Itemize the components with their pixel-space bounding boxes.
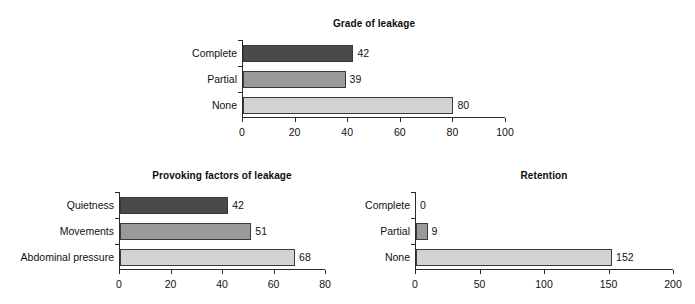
category-label: None <box>212 100 237 111</box>
x-axis-tick <box>171 270 172 274</box>
bar <box>120 197 228 214</box>
category-label: Abdominal pressure <box>21 252 114 263</box>
chart-title: Retention <box>415 170 673 181</box>
x-axis-tick <box>242 118 243 122</box>
chart-provoking-factors-of-leakage: Provoking factors of leakage 020406080Ab… <box>119 170 325 295</box>
y-axis-tick <box>238 66 242 67</box>
x-axis-tick <box>415 270 416 274</box>
bar-row: Partial9 <box>416 223 428 240</box>
category-label: Quietness <box>67 200 114 211</box>
x-axis-tick <box>274 270 275 274</box>
category-label: Partial <box>207 74 237 85</box>
chart-grade-of-leakage: Grade of leakage 020406080100None80Parti… <box>242 18 506 143</box>
plot-area: 020406080100None80Partial39Complete42 <box>242 40 505 118</box>
bar-row: Abdominal pressure68 <box>120 249 295 266</box>
category-label: Complete <box>365 200 410 211</box>
x-axis-tick-label: 50 <box>474 278 486 290</box>
x-axis-tick <box>295 118 296 122</box>
x-axis-line <box>242 117 505 118</box>
x-axis-tick <box>119 270 120 274</box>
bar-value-label: 42 <box>232 200 244 211</box>
x-axis-tick-label: 0 <box>116 278 122 290</box>
y-axis-tick <box>238 92 242 93</box>
x-axis-tick <box>400 118 401 122</box>
category-label: None <box>385 252 410 263</box>
x-axis-tick-label: 40 <box>216 278 228 290</box>
x-axis-tick <box>505 118 506 122</box>
bar <box>416 223 428 240</box>
bar <box>243 97 453 114</box>
x-axis-tick-label: 200 <box>664 278 682 290</box>
bar-value-label: 42 <box>357 48 369 59</box>
chart-title: Provoking factors of leakage <box>119 170 325 181</box>
bar <box>120 249 295 266</box>
bar <box>120 223 251 240</box>
plot-area: 050100150200None152Partial9Complete0 <box>415 192 673 270</box>
y-axis-tick <box>411 244 415 245</box>
category-label: Partial <box>380 226 410 237</box>
x-axis-tick <box>544 270 545 274</box>
x-axis-tick-label: 60 <box>268 278 280 290</box>
y-axis-tick <box>411 192 415 193</box>
x-axis-tick-label: 20 <box>165 278 177 290</box>
bar-value-label: 9 <box>432 226 438 237</box>
x-axis-tick <box>673 270 674 274</box>
chart-retention: Retention 050100150200None152Partial9Com… <box>415 170 673 295</box>
x-axis-tick-label: 0 <box>239 126 245 138</box>
x-axis-tick-label: 150 <box>600 278 618 290</box>
y-axis-tick <box>115 218 119 219</box>
bar-value-label: 51 <box>255 226 267 237</box>
x-axis-tick <box>452 118 453 122</box>
bar-row: Complete0 <box>416 197 417 214</box>
x-axis-tick-label: 80 <box>447 126 459 138</box>
bar <box>416 249 612 266</box>
category-label: Movements <box>60 226 114 237</box>
x-axis-tick-label: 60 <box>394 126 406 138</box>
y-axis-tick <box>115 244 119 245</box>
bar-row: Complete42 <box>243 45 353 62</box>
x-axis-tick <box>222 270 223 274</box>
x-axis-tick-label: 20 <box>289 126 301 138</box>
y-axis-tick <box>238 40 242 41</box>
x-axis-tick <box>480 270 481 274</box>
x-axis-tick-label: 80 <box>319 278 331 290</box>
category-label: Complete <box>192 48 237 59</box>
bar-value-label: 80 <box>457 100 469 111</box>
bar <box>243 71 346 88</box>
bar-value-label: 68 <box>299 252 311 263</box>
y-axis-tick <box>411 218 415 219</box>
x-axis-tick-label: 40 <box>341 126 353 138</box>
chart-title: Grade of leakage <box>242 18 506 29</box>
bar-row: Quietness42 <box>120 197 228 214</box>
bar-row: None80 <box>243 97 453 114</box>
x-axis-tick <box>347 118 348 122</box>
bar-value-label: 39 <box>350 74 362 85</box>
bar-row: Movements51 <box>120 223 251 240</box>
bar-row: None152 <box>416 249 612 266</box>
bar-value-label: 0 <box>420 200 426 211</box>
bar-value-label: 152 <box>616 252 634 263</box>
x-axis-tick <box>325 270 326 274</box>
plot-area: 020406080Abdominal pressure68Movements51… <box>119 192 325 270</box>
bar <box>243 45 353 62</box>
x-axis-tick-label: 100 <box>496 126 514 138</box>
x-axis-tick-label: 100 <box>535 278 553 290</box>
x-axis-tick-label: 0 <box>412 278 418 290</box>
y-axis-tick <box>115 192 119 193</box>
x-axis-tick <box>609 270 610 274</box>
bar-row: Partial39 <box>243 71 346 88</box>
